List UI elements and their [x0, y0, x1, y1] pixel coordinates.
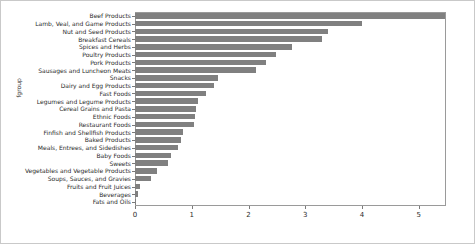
y-tick-label: Fats and Oils	[93, 198, 131, 205]
x-tick-mark	[135, 206, 136, 209]
y-tick-label-row: Pork Products	[27, 59, 131, 67]
y-tick-label-row: Snacks	[27, 74, 131, 82]
x-tick-mark	[362, 206, 363, 209]
bar-row	[135, 90, 446, 98]
bar-row	[135, 12, 446, 20]
y-tick-label: Finfish and Shellfish Products	[44, 129, 131, 136]
x-tick-label: 1	[190, 211, 194, 219]
bar-row	[135, 190, 446, 198]
bar-series	[135, 12, 446, 206]
y-tick-label-row: Lamb, Veal, and Game Products	[27, 20, 131, 28]
y-tick-mark	[132, 47, 135, 48]
bar	[135, 153, 171, 158]
bar-row	[135, 167, 446, 175]
bar	[135, 184, 140, 189]
bar	[135, 83, 214, 88]
bar-row	[135, 152, 446, 160]
bar	[135, 122, 194, 127]
y-tick-mark	[132, 70, 135, 71]
y-tick-label-row: Soups, Sauces, and Gravies	[27, 175, 131, 183]
y-tick-mark	[132, 39, 135, 40]
bar-row	[135, 198, 446, 206]
y-tick-mark	[132, 109, 135, 110]
bar	[135, 75, 218, 80]
y-axis-tick-labels: Beef ProductsLamb, Veal, and Game Produc…	[27, 12, 131, 206]
y-tick-label: Baby Foods	[96, 152, 131, 159]
bar	[135, 129, 183, 134]
x-tick-label: 3	[303, 211, 307, 219]
x-tick-mark	[249, 206, 250, 209]
y-tick-label: Breakfast Cereals	[78, 36, 131, 43]
y-tick-label: Vegetables and Vegetable Products	[25, 167, 131, 174]
y-tick-label: Sweets	[109, 160, 131, 167]
bar-row	[135, 28, 446, 36]
y-tick-mark	[132, 194, 135, 195]
y-tick-mark	[132, 148, 135, 149]
x-tick-label: 2	[246, 211, 250, 219]
y-tick-mark	[132, 78, 135, 79]
bar	[135, 52, 276, 57]
bar	[135, 91, 206, 96]
bar	[135, 176, 151, 181]
y-tick-label-row: Fruits and Fruit Juices	[27, 183, 131, 191]
bar	[135, 67, 256, 72]
bar	[135, 21, 362, 26]
y-tick-mark	[132, 55, 135, 56]
bar-row	[135, 74, 446, 82]
y-tick-mark	[132, 202, 135, 203]
bar-row	[135, 66, 446, 74]
y-tick-label: Dairy and Egg Products	[61, 82, 131, 89]
bar-row	[135, 59, 446, 67]
x-tick-mark	[192, 206, 193, 209]
y-tick-label-row: Beverages	[27, 190, 131, 198]
y-tick-label: Spices and Herbs	[79, 43, 131, 50]
y-tick-label: Cereal Grains and Pasta	[59, 105, 131, 112]
x-tick-label: 4	[360, 211, 364, 219]
y-tick-label: Legumes and Legume Products	[37, 98, 131, 105]
y-tick-label-row: Meals, Entrees, and Sidedishes	[27, 144, 131, 152]
y-tick-label-row: Poultry Products	[27, 51, 131, 59]
y-tick-label-row: Baked Products	[27, 136, 131, 144]
y-tick-mark	[132, 187, 135, 188]
y-tick-label-row: Dairy and Egg Products	[27, 82, 131, 90]
bar-row	[135, 183, 446, 191]
y-tick-mark	[132, 86, 135, 87]
y-tick-label: Beef Products	[90, 12, 131, 19]
bar	[135, 168, 157, 173]
bar-row	[135, 97, 446, 105]
bar	[135, 98, 198, 103]
y-tick-mark	[132, 117, 135, 118]
y-tick-label: Nut and Seed Products	[62, 28, 131, 35]
y-tick-label-row: Vegetables and Vegetable Products	[27, 167, 131, 175]
bar-row	[135, 128, 446, 136]
y-tick-label-row: Ethnic Foods	[27, 113, 131, 121]
y-tick-label-row: Fast Foods	[27, 90, 131, 98]
y-tick-label: Fast Foods	[100, 90, 131, 97]
x-tick-label: 5	[417, 211, 421, 219]
y-tick-mark	[132, 93, 135, 94]
x-tick-mark	[419, 206, 420, 209]
y-tick-label: Soups, Sauces, and Gravies	[48, 175, 131, 182]
y-tick-label-row: Restaurant Foods	[27, 121, 131, 129]
y-tick-label: Meals, Entrees, and Sidedishes	[38, 144, 131, 151]
y-tick-mark	[132, 132, 135, 133]
y-tick-mark	[132, 163, 135, 164]
bar-row	[135, 82, 446, 90]
bar	[135, 137, 181, 142]
y-tick-mark	[132, 156, 135, 157]
y-tick-label-row: Beef Products	[27, 12, 131, 20]
y-tick-label: Baked Products	[85, 136, 131, 143]
bar-row	[135, 43, 446, 51]
bar-row	[135, 136, 446, 144]
y-tick-label: Beverages	[99, 191, 131, 198]
y-tick-label: Pork Products	[90, 59, 131, 66]
y-tick-label-row: Spices and Herbs	[27, 43, 131, 51]
bar	[135, 106, 196, 111]
y-tick-mark	[132, 16, 135, 17]
y-tick-mark	[132, 125, 135, 126]
y-tick-mark	[132, 179, 135, 180]
bar	[135, 114, 195, 119]
bar-row	[135, 175, 446, 183]
x-tick-mark	[305, 206, 306, 209]
x-tick-label: 0	[133, 211, 137, 219]
